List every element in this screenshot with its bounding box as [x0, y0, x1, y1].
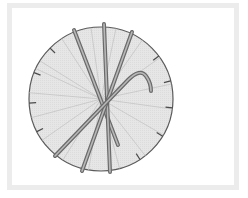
diagram-canvas	[0, 0, 248, 198]
dial-diagram	[0, 0, 248, 198]
